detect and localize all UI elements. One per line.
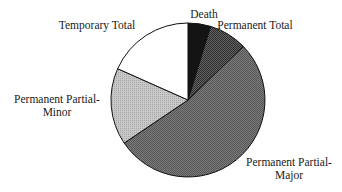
slice-label-death: Death: [190, 8, 218, 20]
slice-label-temporary-total: Temporary Total: [59, 19, 135, 32]
slice-label-permanent-partial-major: Permanent Partial-Major: [246, 156, 332, 182]
pie-chart: DeathPermanent TotalTemporary TotalPerma…: [0, 0, 342, 192]
slice-label-permanent-total: Permanent Total: [217, 19, 292, 31]
pie-slices: [111, 23, 265, 177]
slice-label-permanent-partial-minor: Permanent Partial-Minor: [14, 93, 100, 118]
